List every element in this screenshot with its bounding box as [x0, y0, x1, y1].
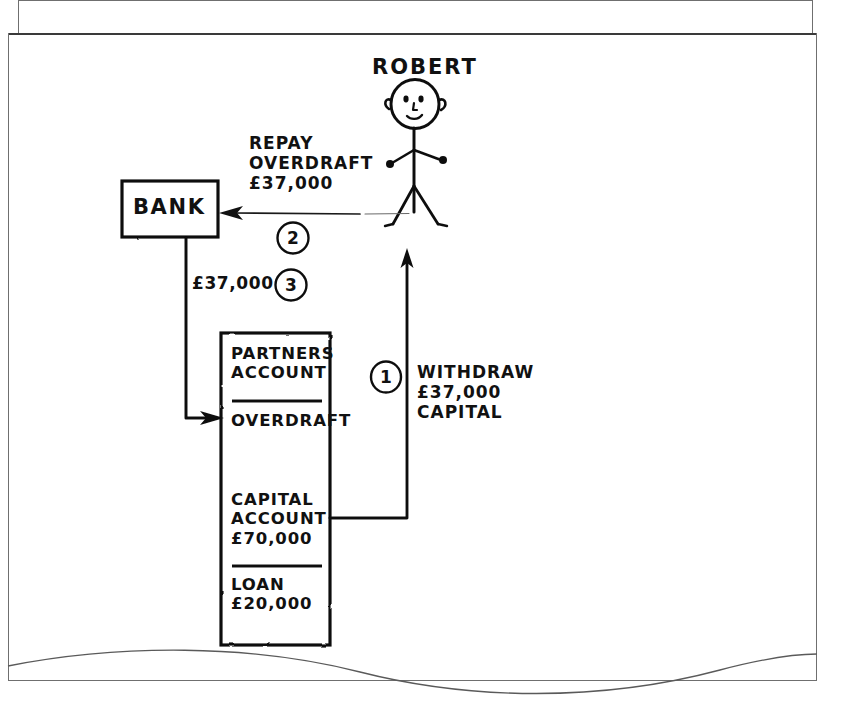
step-2-annotation-label: REPAY OVERDRAFT £37,000: [249, 133, 373, 193]
stick-figure-robert-icon: [385, 80, 447, 227]
account-row-overdraft: OVERDRAFT: [231, 411, 351, 430]
account-box-title: PARTNERS ACCOUNT: [231, 344, 334, 383]
account-row-loan: LOAN £20,000: [231, 575, 312, 614]
step-1-number: 1: [371, 362, 401, 392]
step-1-annotation-label: WITHDRAW £37,000 CAPITAL: [417, 362, 534, 422]
step-2-number: 2: [278, 223, 308, 253]
bank-label: BANK: [133, 195, 206, 220]
person-name-label: ROBERT: [372, 55, 478, 80]
diagram-canvas: [0, 0, 855, 714]
flow-arrow-step-2: [219, 206, 409, 220]
account-row-capital-account: CAPITAL ACCOUNT £70,000: [231, 490, 327, 548]
step-3-annotation-label: £37,000: [192, 273, 274, 293]
flow-arrow-step-3: [186, 238, 224, 425]
step-3-number: 3: [276, 270, 306, 300]
